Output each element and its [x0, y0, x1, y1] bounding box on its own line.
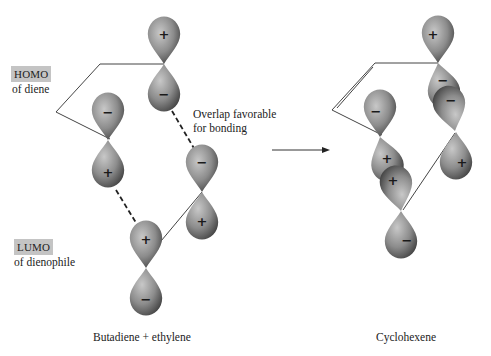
- minus-sign-icon: −: [159, 88, 170, 101]
- lumo-label: LUMO of dienophile: [14, 239, 75, 269]
- plus-sign-icon: +: [428, 28, 439, 41]
- minus-sign-icon: −: [446, 94, 457, 107]
- arrow-head-icon: [322, 147, 330, 153]
- overlap-line2: for bonding: [193, 122, 247, 134]
- minus-sign-icon: −: [438, 74, 449, 87]
- minus-sign-icon: −: [197, 156, 208, 169]
- overlap-dashed-line: [172, 111, 195, 150]
- lumo-tag: LUMO: [14, 239, 53, 255]
- overlap-label: Overlap favorable for bonding: [193, 107, 276, 135]
- plus-sign-icon: +: [141, 233, 152, 246]
- homo-tag: HOMO: [11, 66, 51, 82]
- diagram-canvas: [0, 0, 491, 356]
- plus-sign-icon: +: [197, 215, 208, 228]
- plus-sign-icon: +: [388, 174, 399, 187]
- homo-label: HOMO of diene: [11, 66, 51, 96]
- plus-sign-icon: +: [159, 28, 170, 41]
- caption-product: Cyclohexene: [376, 331, 436, 343]
- plus-sign-icon: +: [103, 166, 114, 179]
- homo-caption: of diene: [11, 83, 49, 95]
- overlap-line1: Overlap favorable: [193, 108, 276, 120]
- caption-reactants: Butadiene + ethylene: [93, 331, 191, 343]
- overlap-dashed-line: [116, 190, 138, 226]
- lumo-caption: of dienophile: [14, 256, 75, 268]
- minus-sign-icon: −: [103, 106, 114, 119]
- minus-sign-icon: −: [371, 105, 382, 118]
- plus-sign-icon: +: [457, 156, 468, 169]
- minus-sign-icon: −: [141, 293, 152, 306]
- plus-sign-icon: +: [382, 152, 393, 165]
- minus-sign-icon: −: [402, 234, 413, 247]
